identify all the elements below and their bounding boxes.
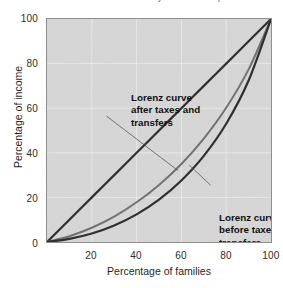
y-tick-label-60: 60 [10,103,38,114]
x-tick-label-60: 60 [167,250,195,261]
x-axis-title: Percentage of families [46,265,272,277]
annotation-after-taxes: Lorenz curve after taxes and transfers [131,92,235,129]
annotation-before-taxes: Lorenz curve before taxes and transfers [219,212,272,243]
y-tick-label-100: 100 [10,13,38,24]
x-tick-label-40: 40 [122,250,150,261]
plot-canvas [47,19,271,242]
x-tick-label-20: 20 [77,250,105,261]
y-tick-label-20: 20 [10,193,38,204]
y-tick-label-80: 80 [10,58,38,69]
y-tick-label-0: 0 [10,238,38,249]
y-tick-label-40: 40 [10,148,38,159]
leader-line-before [189,165,210,185]
x-tick-label-100: 100 [257,250,283,261]
x-tick-label-80: 80 [212,250,240,261]
series-line-0 [47,19,271,242]
plot-area: Lorenz curve after taxes and transfers L… [46,18,272,243]
data-series-group [47,19,271,242]
chart-figure: the share of income received by the lowe… [0,0,283,288]
figure-caption-cutoff: the share of income received by the lowe… [18,0,268,2]
